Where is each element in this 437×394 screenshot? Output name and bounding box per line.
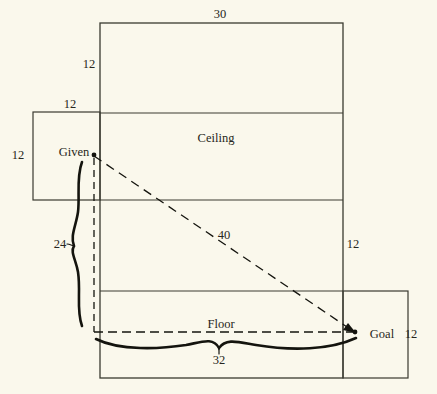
label-brace-bottom-32: 32 [213, 354, 226, 367]
label-ceiling: Ceiling [198, 132, 235, 145]
brace-bottom-32 [96, 338, 356, 354]
label-floor: Floor [207, 318, 234, 331]
label-upper-left-height: 12 [83, 58, 96, 71]
given-point-marker [92, 153, 97, 158]
label-goal: Goal [370, 328, 394, 341]
label-right-height: 12 [347, 238, 360, 251]
geometry-figure: 30 12 12 12 24 12 40 32 12 Ceiling Floor… [0, 0, 437, 394]
dashed-diagonal-path [94, 156, 353, 331]
label-given: Given [59, 146, 90, 159]
brace-left-24 [67, 162, 82, 326]
label-brace-left-24: 24 [54, 238, 67, 251]
label-left-flap-width: 12 [64, 98, 77, 111]
goal-point-marker [353, 330, 358, 335]
label-bottom-right-height: 12 [405, 328, 418, 341]
label-left-flap-height: 12 [12, 149, 25, 162]
label-diagonal-40: 40 [218, 229, 231, 242]
label-top-width: 30 [214, 8, 227, 21]
